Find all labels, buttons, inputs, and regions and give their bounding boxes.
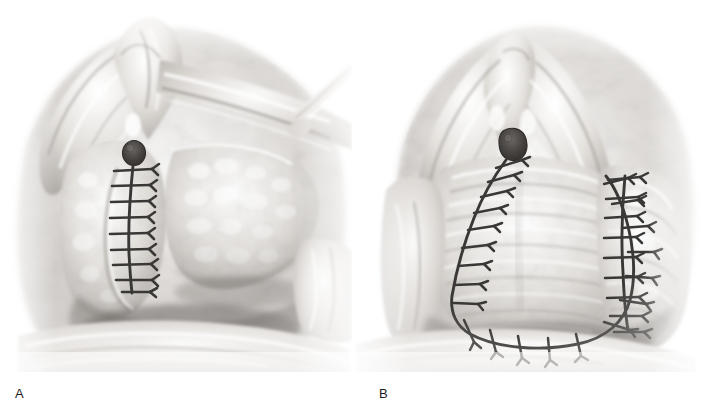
surgical-illustration-figure — [0, 0, 703, 411]
panel-label-b: B — [379, 386, 388, 401]
figure-bottom-mask — [0, 372, 703, 411]
panel-a-fade-top — [0, 0, 352, 60]
panel-b — [352, 0, 703, 378]
panel-a — [0, 0, 352, 378]
panel-b-fade-top — [352, 0, 703, 60]
panel-label-a: A — [15, 386, 24, 401]
